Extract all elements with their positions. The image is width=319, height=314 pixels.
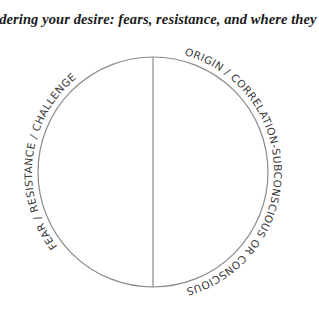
split-circle-diagram: ORIGIN / CORRELATION-SUBCONSCIOUS OR CON… <box>0 0 319 314</box>
left-half-label: FEAR / RESISTANCE / CHALLENGE <box>22 70 78 252</box>
right-half-label: ORIGIN / CORRELATION-SUBCONSCIOUS OR CON… <box>184 45 284 298</box>
